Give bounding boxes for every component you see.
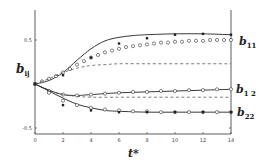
series-group xyxy=(33,33,232,114)
b11-label: b11 xyxy=(239,35,256,50)
x-tick-label: 12 xyxy=(200,137,206,143)
x-tick-label: 2 xyxy=(61,137,64,143)
x-tick-label: 8 xyxy=(145,137,148,143)
b22-solid-series xyxy=(35,84,231,112)
x-tick-label: 10 xyxy=(172,137,178,143)
y-axis-label: bij xyxy=(16,62,30,78)
b11-circles-series xyxy=(33,38,232,85)
x-tick-label: 14 xyxy=(228,137,234,143)
chart-canvas: 02468101214-0.50.5 xyxy=(0,0,269,164)
y-tick-label: -0.5 xyxy=(22,125,32,131)
b12-label: b1 2 xyxy=(236,83,256,98)
y-tick-label: 0.5 xyxy=(24,37,32,43)
x-tick-label: 6 xyxy=(117,137,120,143)
x-tick-label: 4 xyxy=(89,137,92,143)
axes: 02468101214-0.50.5 xyxy=(22,10,234,143)
b22-label: b22 xyxy=(237,106,254,121)
x-axis-label: t* xyxy=(128,147,139,160)
x-tick-label: 0 xyxy=(33,137,36,143)
b11-dashed-series xyxy=(35,64,231,84)
